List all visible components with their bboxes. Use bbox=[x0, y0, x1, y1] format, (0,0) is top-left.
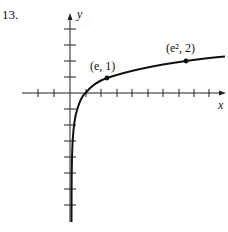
x-axis-label: x bbox=[217, 98, 224, 112]
x-axis-arrow-icon bbox=[219, 91, 226, 96]
y-axis-label: y bbox=[76, 7, 83, 21]
label-e2-2: (e², 2) bbox=[166, 41, 195, 55]
ln-curve bbox=[72, 57, 226, 223]
y-axis-arrow-icon bbox=[68, 13, 73, 20]
point-e-1 bbox=[105, 76, 110, 81]
point-e2-2 bbox=[184, 59, 189, 64]
graph: (e, 1) (e², 2) x y bbox=[0, 0, 228, 232]
label-e-1: (e, 1) bbox=[90, 59, 115, 73]
